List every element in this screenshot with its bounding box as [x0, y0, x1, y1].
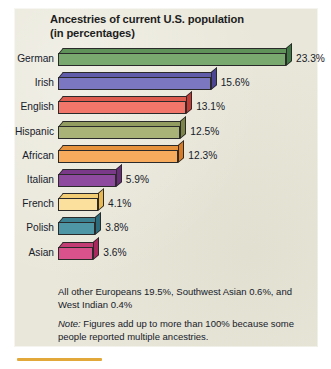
bar[interactable] [58, 145, 178, 167]
bar-category-label: French [0, 196, 54, 211]
bar-value-label: 3.6% [103, 245, 126, 260]
bar-row: Asian3.6% [0, 242, 304, 264]
bar-row: Polish3.8% [0, 217, 304, 239]
bar-row: English13.1% [0, 96, 304, 118]
bar-side-face [98, 188, 104, 211]
bar-value-label: 13.1% [196, 99, 225, 114]
bar-side-face [211, 67, 217, 90]
bar-side-face [186, 91, 192, 114]
bar-front-face [58, 126, 180, 139]
bar-front-face [58, 174, 116, 187]
bar[interactable] [58, 217, 95, 239]
bar-value-label: 3.8% [105, 220, 128, 235]
bar-row: Irish15.6% [0, 72, 304, 94]
bar[interactable] [58, 72, 211, 94]
bar[interactable] [58, 169, 116, 191]
bar-category-label: English [0, 99, 54, 114]
chart-title: Ancestries of current U.S. population (i… [50, 12, 300, 41]
footnote-note: Note: Figures add up to more than 100% b… [58, 318, 304, 343]
chart-figure: Ancestries of current U.S. population (i… [0, 0, 331, 369]
bar-value-label: 15.6% [221, 75, 250, 90]
bar-row: African12.3% [0, 145, 304, 167]
bar[interactable] [58, 121, 180, 143]
bar-value-label: 12.3% [188, 148, 217, 163]
bar-row: French4.1% [0, 193, 304, 215]
plot-area: German23.3%Irish15.6%English13.1%Hispani… [0, 48, 304, 268]
bar[interactable] [58, 48, 286, 70]
footnote-note-prefix: Note: [58, 318, 81, 329]
bar-category-label: German [0, 51, 54, 66]
bar-category-label: Polish [0, 220, 54, 235]
footnote-note-body: Figures add up to more than 100% because… [58, 318, 294, 342]
bar-front-face [58, 77, 211, 90]
bar[interactable] [58, 242, 93, 264]
bar[interactable] [58, 96, 186, 118]
bar-front-face [58, 222, 95, 235]
bar-row: Hispanic12.5% [0, 121, 304, 143]
bar-row: German23.3% [0, 48, 304, 70]
bar-value-label: 4.1% [108, 196, 131, 211]
bar-side-face [286, 43, 292, 66]
bar-side-face [93, 237, 99, 260]
chart-subtitle: (in percentages) [50, 26, 300, 40]
bar-front-face [58, 247, 93, 260]
bar-front-face [58, 150, 178, 163]
bar-side-face [178, 140, 184, 163]
bar-front-face [58, 101, 186, 114]
bar-row: Italian5.9% [0, 169, 304, 191]
bar-front-face [58, 53, 286, 66]
bar[interactable] [58, 193, 98, 215]
bar-side-face [116, 164, 122, 187]
bar-category-label: Italian [0, 172, 54, 187]
chart-title-line1: Ancestries of current U.S. population [50, 13, 244, 25]
bottom-orange-rule [17, 358, 102, 361]
bar-side-face [180, 116, 186, 139]
bar-value-label: 12.5% [190, 124, 219, 139]
bar-category-label: Irish [0, 75, 54, 90]
bar-value-label: 23.3% [296, 51, 325, 66]
bar-category-label: Hispanic [0, 124, 54, 139]
footnote-other-ancestries: All other Europeans 19.5%, Southwest Asi… [58, 286, 304, 311]
bar-category-label: African [0, 148, 54, 163]
bar-front-face [58, 198, 98, 211]
bar-value-label: 5.9% [126, 172, 149, 187]
bar-category-label: Asian [0, 245, 54, 260]
bar-side-face [95, 212, 101, 235]
